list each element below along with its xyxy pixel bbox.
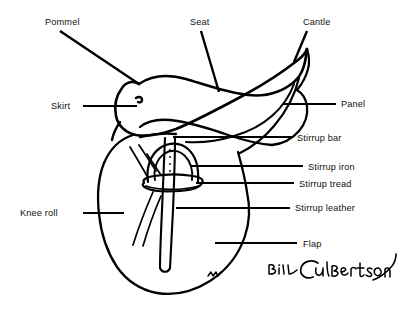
knee-roll-crease-4: [133, 192, 153, 245]
label-pommel: Pommel: [45, 17, 80, 27]
signature: [269, 254, 396, 280]
label-cantle: Cantle: [303, 17, 330, 27]
label-stirrup-iron: Stirrup iron: [308, 162, 355, 172]
leather-stitch-dot-1: [169, 149, 171, 151]
label-knee-roll: Knee roll: [20, 208, 58, 218]
label-stirrup-leather: Stirrup leather: [295, 203, 355, 213]
label-panel: Panel: [341, 99, 365, 109]
flap-bottom-scribble: [208, 272, 221, 276]
label-flap: Flap: [303, 239, 321, 249]
label-skirt: Skirt: [51, 101, 70, 111]
leather-stitch-dot-4: [169, 170, 171, 172]
leather-stitch-dot-2: [169, 156, 171, 158]
label-stirrup-bar: Stirrup bar: [297, 133, 342, 143]
label-stirrup-tread: Stirrup tread: [299, 179, 352, 189]
label-seat: Seat: [190, 17, 210, 27]
leader-seat: [201, 31, 219, 92]
skirt-hook-mark: [136, 97, 142, 102]
knee-roll-crease-5: [143, 196, 161, 246]
saddle-drawing: [98, 49, 309, 294]
saddle-diagram-canvas: Pommel Seat Cantle Skirt Panel Stirrup b…: [0, 0, 412, 320]
stirrup-leather-right-edge: [170, 138, 175, 268]
flap-right-upper-edge: [238, 152, 247, 192]
stirrup-leather-bottom: [160, 268, 170, 272]
knee-roll-crease-1: [130, 147, 147, 176]
leather-stitch-dot-3: [169, 163, 171, 165]
skirt-lower-edge: [112, 122, 120, 140]
saddle-diagram-figure: Pommel Seat Cantle Skirt Panel Stirrup b…: [0, 0, 412, 320]
label-texts: Pommel Seat Cantle Skirt Panel Stirrup b…: [20, 17, 365, 249]
leader-pommel: [60, 31, 139, 84]
